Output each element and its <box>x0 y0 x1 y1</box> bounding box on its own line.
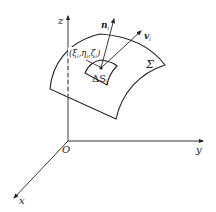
velocity-label: vi <box>144 31 151 42</box>
normal-vector: ni <box>101 19 114 68</box>
z-axis-label: z <box>57 15 64 26</box>
x-axis-label: x <box>19 195 25 206</box>
surface-label: Σ <box>145 58 154 71</box>
normal-label: ni <box>101 20 110 31</box>
y-axis-label: y <box>195 144 202 155</box>
element-label: ΔSi <box>92 73 108 85</box>
origin-label: O <box>62 144 70 155</box>
surface-integral-diagram: z y x O Σ ΔSi (ξi,ηi,ζi) ni vi <box>0 0 216 212</box>
x-axis <box>14 141 68 198</box>
surface-element: ΔSi <box>85 60 117 85</box>
axes: z y x O <box>14 15 203 206</box>
